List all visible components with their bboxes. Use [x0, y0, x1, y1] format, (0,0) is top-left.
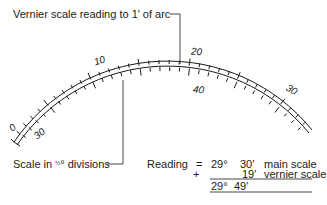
reading-vernier-desc: vernier scale	[264, 168, 326, 180]
vernier-scale-tick	[291, 120, 294, 123]
reading-label: Reading	[147, 158, 188, 170]
reading-total-deg: 29°	[211, 180, 228, 192]
vernier-scale-label-40: 40	[192, 84, 204, 97]
vernier-scale-arc	[17, 66, 309, 145]
main-scale-tick	[38, 109, 41, 112]
reading-vernier-min: 19′	[242, 168, 256, 180]
main-scale-tick	[189, 59, 190, 66]
vernier-scale-tick	[93, 82, 96, 88]
main-scale-tick	[247, 79, 249, 83]
bottom-callout-label: Scale in ½° divisions	[13, 158, 110, 170]
main-scale-tick	[99, 72, 100, 76]
main-scale-tick	[44, 100, 48, 105]
reading-plus: +	[193, 168, 199, 180]
main-scale-label-20: 20	[191, 46, 203, 59]
main-scale-tick	[118, 66, 119, 70]
vernier-scale-tick	[102, 78, 103, 82]
bottom-callout-leader	[107, 80, 123, 164]
main-scale-tick	[228, 71, 229, 75]
vernier-scale-tick	[198, 70, 199, 74]
main-scale-tick	[303, 122, 306, 125]
vernier-scale-tick	[208, 72, 209, 76]
vernier-scale-tick	[140, 69, 141, 76]
reading-main-deg: 29°	[211, 158, 228, 170]
vernier-scale-tick	[51, 107, 55, 112]
main-scale-tick	[30, 116, 33, 119]
vernier-scale-tick	[226, 78, 227, 82]
main-scale-tick	[138, 59, 139, 66]
vernier-scale-tick	[111, 75, 112, 79]
top-callout-label: Vernier scale reading to 1′ of arc	[13, 8, 170, 20]
vernier-scale-tick	[253, 90, 255, 93]
vernier-scale-tick	[121, 72, 122, 76]
main-scale-tick	[264, 89, 266, 92]
vernier-scale-tick	[217, 75, 218, 79]
vernier-scale-tick	[244, 86, 246, 90]
vernier-scale-tick	[284, 113, 287, 116]
main-scale-tick	[288, 108, 291, 111]
main-scale-tick	[256, 84, 258, 87]
vernier-scale-tick	[189, 69, 190, 76]
vernier-scale-tick	[261, 96, 263, 99]
vernier-scale-tick	[269, 101, 271, 104]
vernier-scale-tick	[234, 82, 237, 88]
top-callout-leader	[170, 14, 180, 64]
main-scale-tick	[23, 123, 26, 126]
main-scale-tick	[272, 95, 274, 98]
vernier-scale-tick	[130, 70, 131, 74]
reading-total-min: 49′	[234, 180, 248, 192]
vernier-scale-tick	[84, 86, 86, 90]
main-scale-tick	[109, 69, 110, 73]
main-scale-tick	[296, 115, 299, 118]
vernier-scale-tick	[298, 127, 301, 130]
main-scale-tick	[128, 64, 129, 68]
vernier-scale-tick	[275, 107, 279, 112]
